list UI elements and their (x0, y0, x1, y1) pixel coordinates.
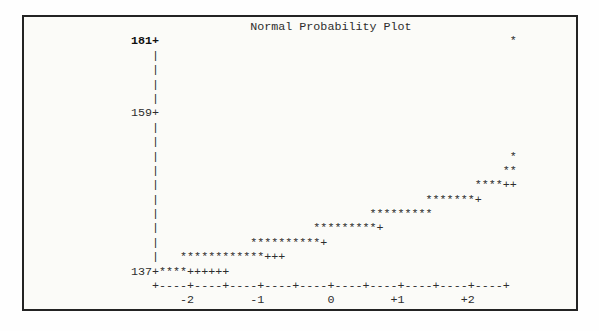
plot-line: | ************+++ (131, 250, 517, 264)
plot-line: | * (131, 150, 517, 164)
plot-line: 181+ * (131, 34, 517, 48)
plot-line: 137+****++++++ (131, 265, 517, 279)
plot-line: -2 -1 0 +1 +2 (131, 293, 517, 307)
plot-line: | (131, 78, 517, 92)
plot-line: | (131, 63, 517, 77)
plot-line: | ****++ (131, 178, 517, 192)
plot-line: Normal Probability Plot (131, 20, 517, 34)
screenshot-background: { "colors": { "outer": "#fefefe", "paper… (0, 0, 599, 331)
plot-line: | (131, 135, 517, 149)
plot-line: | (131, 92, 517, 106)
plot-line: 159+ (131, 106, 517, 120)
plot-line: | (131, 121, 517, 135)
plot-line: | ********* (131, 207, 517, 221)
figure-box: Normal Probability Plot181+ * | | | |159… (22, 15, 578, 311)
ascii-plot: Normal Probability Plot181+ * | | | |159… (131, 20, 517, 308)
plot-line: | *********+ (131, 221, 517, 235)
plot-line: | *******+ (131, 193, 517, 207)
plot-line: +----+----+----+----+----+----+----+----… (131, 279, 517, 293)
plot-line: | ** (131, 164, 517, 178)
y-axis-label-bold: 181+ (131, 34, 159, 48)
plot-line: | (131, 49, 517, 63)
plot-line: | **********+ (131, 236, 517, 250)
